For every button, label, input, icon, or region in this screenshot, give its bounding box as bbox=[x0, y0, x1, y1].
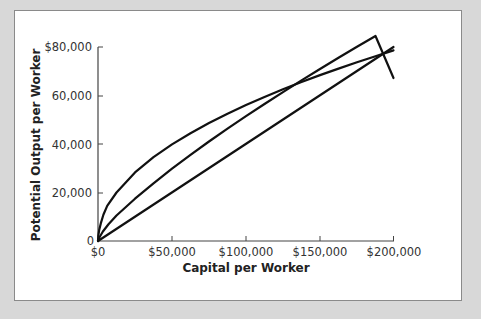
chart: $80,000 60,000 40,000 20,000 0 $0 $50,00… bbox=[0, 0, 491, 319]
y-tick-label: 60,000 bbox=[52, 89, 92, 103]
y-axis-title: Potential Output per Worker bbox=[29, 49, 43, 242]
series-line-alpha-1 bbox=[98, 47, 394, 241]
y-tick-label: 40,000 bbox=[52, 138, 92, 152]
x-tick-label: $50,000 bbox=[148, 245, 196, 259]
y-tick-label: $80,000 bbox=[44, 40, 92, 54]
x-ticks bbox=[172, 236, 394, 241]
x-tick-label: $200,000 bbox=[367, 245, 422, 259]
x-tick-label: $100,000 bbox=[219, 245, 274, 259]
series-line-alpha-0.75 bbox=[98, 36, 394, 241]
x-tick-label: $150,000 bbox=[293, 245, 348, 259]
y-ticks bbox=[98, 47, 103, 193]
y-tick-label: 20,000 bbox=[52, 186, 92, 200]
x-tick-label: $0 bbox=[91, 245, 106, 259]
x-axis-title: Capital per Worker bbox=[182, 261, 309, 275]
